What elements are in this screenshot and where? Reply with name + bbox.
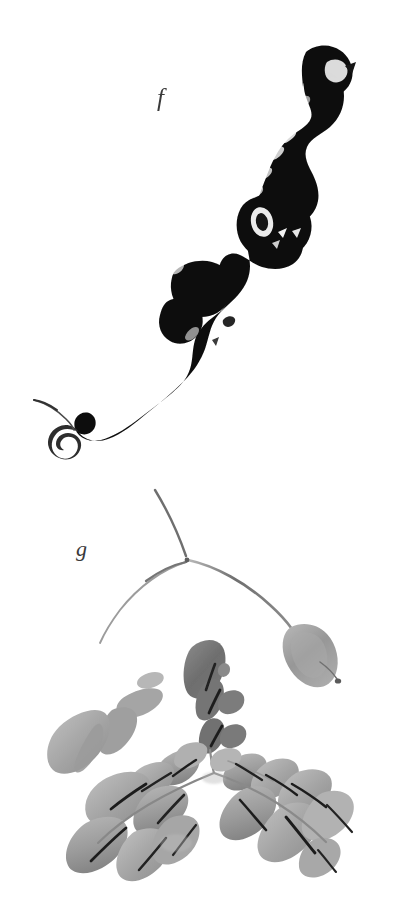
ink-plate: f g: [0, 0, 393, 920]
head-flying-white: [325, 60, 348, 83]
figure-label-f: f: [157, 85, 164, 110]
plate-artwork: [0, 0, 393, 920]
stem-node: [185, 558, 190, 563]
paper-background: [0, 0, 393, 920]
figure-label-g: g: [76, 538, 87, 560]
stroke-knot: [237, 193, 312, 260]
pod-tip: [335, 678, 341, 683]
